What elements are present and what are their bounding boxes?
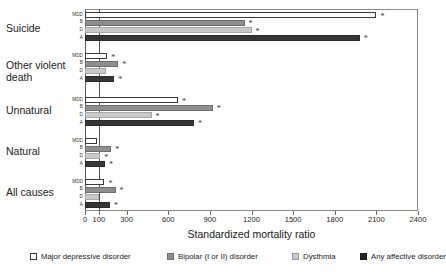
legend-label: Bipolar (I or II) disorder <box>178 252 258 261</box>
group-label-all-causes: All causes <box>6 186 54 198</box>
significance-marker: * <box>111 55 115 61</box>
bar-a-unnatural <box>85 120 194 126</box>
x-tick-label: 900 <box>190 215 230 224</box>
series-tick-a: A <box>69 36 83 41</box>
legend-entry-b: Bipolar (I or II) disorder <box>167 252 258 261</box>
bar-d-natural <box>85 153 100 159</box>
bar-a-suicide <box>85 35 360 41</box>
significance-marker: * <box>114 203 118 209</box>
significance-marker: * <box>122 62 126 68</box>
x-tick-label: 2100 <box>356 215 396 224</box>
bar-a-other-violent-death <box>85 76 114 82</box>
bar-mdd-natural <box>85 138 97 144</box>
x-tick-label: 1800 <box>315 215 355 224</box>
series-tick-d: D <box>69 154 83 159</box>
series-tick-b: B <box>69 20 83 25</box>
bar-b-natural <box>85 146 111 152</box>
series-tick-mdd: MDD <box>69 13 83 18</box>
x-tick-label: 1200 <box>232 215 272 224</box>
significance-marker: * <box>364 36 368 42</box>
significance-marker: * <box>118 77 122 83</box>
series-tick-b: B <box>69 105 83 110</box>
bar-mdd-all-causes <box>85 179 104 185</box>
bar-a-natural <box>85 161 105 167</box>
bar-d-suicide <box>85 27 252 33</box>
significance-marker: * <box>120 188 124 194</box>
significance-marker: * <box>104 155 108 161</box>
series-tick-d: D <box>69 113 83 118</box>
legend-swatch-a-icon <box>360 253 367 260</box>
significance-marker: * <box>380 14 384 20</box>
significance-marker: * <box>217 106 221 112</box>
series-tick-a: A <box>69 77 83 82</box>
series-tick-a: A <box>69 162 83 167</box>
series-tick-b: B <box>69 61 83 66</box>
group-label-natural: Natural <box>6 145 40 157</box>
series-tick-b: B <box>69 146 83 151</box>
bar-d-all-causes <box>85 194 99 200</box>
legend-entry-d: Dysthmia <box>292 252 336 261</box>
bar-mdd-suicide <box>85 12 376 18</box>
legend-label: Any affective disorder <box>371 252 446 261</box>
group-label-unnatural: Unnatural <box>6 104 52 116</box>
bar-b-unnatural <box>85 105 213 111</box>
significance-marker: * <box>115 147 119 153</box>
x-tick-label: 300 <box>107 215 147 224</box>
chart-legend: Major depressive disorderBipolar (I or I… <box>30 252 430 266</box>
x-tick-label: 2400 <box>398 215 438 224</box>
x-tick-label: 1500 <box>273 215 313 224</box>
series-tick-mdd: MDD <box>69 54 83 59</box>
series-tick-mdd: MDD <box>69 139 83 144</box>
significance-marker: * <box>256 29 260 35</box>
significance-marker: * <box>109 162 113 168</box>
legend-entry-a: Any affective disorder <box>360 252 446 261</box>
series-tick-mdd: MDD <box>69 180 83 185</box>
bar-d-unnatural <box>85 112 152 118</box>
significance-marker: * <box>182 99 186 105</box>
group-label-other-violent-death: Other violent death <box>6 59 66 83</box>
group-label-suicide: Suicide <box>6 22 40 34</box>
legend-label: Major depressive disorder <box>41 252 131 261</box>
series-tick-d: D <box>69 195 83 200</box>
x-axis-title: Standardized mortality ratio <box>85 228 418 240</box>
series-tick-mdd: MDD <box>69 98 83 103</box>
series-tick-a: A <box>69 121 83 126</box>
bar-mdd-unnatural <box>85 97 178 103</box>
series-tick-d: D <box>69 28 83 33</box>
series-tick-b: B <box>69 187 83 192</box>
legend-label: Dysthmia <box>303 252 336 261</box>
series-tick-d: D <box>69 69 83 74</box>
significance-marker: * <box>108 181 112 187</box>
legend-swatch-d-icon <box>292 253 299 260</box>
series-tick-a: A <box>69 203 83 208</box>
significance-marker: * <box>198 121 202 127</box>
significance-marker: * <box>249 21 253 27</box>
bar-a-all-causes <box>85 202 110 208</box>
legend-swatch-b-icon <box>167 253 174 260</box>
bar-b-suicide <box>85 20 245 26</box>
bar-d-other-violent-death <box>85 68 106 74</box>
significance-marker: * <box>156 114 160 120</box>
legend-entry-mdd: Major depressive disorder <box>30 252 131 261</box>
bar-mdd-other-violent-death <box>85 53 107 59</box>
legend-swatch-mdd-icon <box>30 253 37 260</box>
x-tick-label: 600 <box>148 215 188 224</box>
